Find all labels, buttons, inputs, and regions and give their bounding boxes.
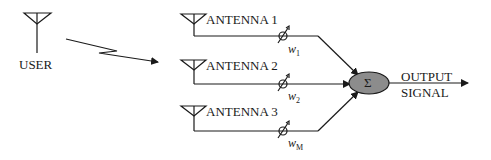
antenna-2-icon <box>181 60 206 84</box>
antenna-2-label: ANTENNA 2 <box>206 59 278 72</box>
antenna-3-label: ANTENNA 3 <box>206 105 278 118</box>
wireless-link-icon <box>66 39 158 62</box>
summer-symbol: Σ <box>364 76 372 89</box>
user-label: USER <box>19 58 52 71</box>
weight-3-label: wM <box>288 137 303 152</box>
weight-1-label: w1 <box>288 43 300 58</box>
weight-2-label: w2 <box>288 90 300 105</box>
user-antenna-icon <box>24 13 51 53</box>
antenna-3-icon <box>181 106 206 131</box>
antenna-1-label: ANTENNA 1 <box>206 13 278 26</box>
output-label-line2: SIGNAL <box>401 86 449 99</box>
phase-shifter-1-icon <box>278 26 289 43</box>
output-label-line1: OUTPUT <box>401 70 452 83</box>
antenna-1-icon <box>181 14 206 36</box>
